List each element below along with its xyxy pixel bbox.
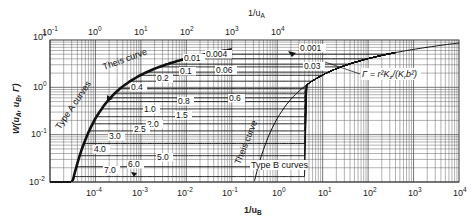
- curve-label-g70: 7.0: [104, 165, 116, 175]
- svg-text:103: 103: [408, 186, 422, 198]
- svg-text:101: 101: [134, 25, 148, 37]
- curve-label-g01: 0.1: [180, 66, 192, 76]
- svg-text:104: 104: [453, 186, 467, 198]
- type-b-curves-label: Type B curves: [251, 160, 309, 170]
- curve-label-g0001: 0.001: [300, 43, 322, 53]
- svg-text:10-2: 10-2: [177, 186, 193, 198]
- theis-curve-lower-label: Theis curve: [233, 119, 260, 166]
- type-curve-chart: 10-1 100 101 102 103 104 1/uA 10-4 10-3 …: [0, 0, 472, 224]
- svg-text:10-1: 10-1: [222, 186, 238, 198]
- top-axis-ticks: 10-1 100 101 102 103 104: [42, 25, 285, 37]
- curve-label-g30: 3.0: [109, 131, 121, 141]
- svg-text:102: 102: [363, 186, 377, 198]
- curve-label-g60: 6.0: [128, 159, 140, 169]
- top-axis-title: 1/uA: [248, 8, 266, 19]
- curve-label-g02: 0.2: [157, 73, 169, 83]
- svg-text:103: 103: [225, 25, 239, 37]
- curve-label-g10: 1.0: [144, 104, 156, 114]
- type-a-curves-label: Type A curves: [53, 79, 93, 131]
- svg-text:100: 100: [272, 186, 286, 198]
- svg-text:104: 104: [271, 25, 285, 37]
- svg-text:102: 102: [180, 25, 194, 37]
- svg-text:10-1: 10-1: [31, 127, 47, 139]
- curve-label-g04: 0.4: [131, 82, 143, 92]
- curve-label-g15: 1.5: [176, 110, 188, 120]
- svg-text:10-2: 10-2: [29, 175, 45, 187]
- curve-label-g25: 2.5: [134, 124, 146, 134]
- svg-text:101: 101: [33, 30, 47, 42]
- y-axis-ticks: 101 100 10-1 10-2: [29, 30, 47, 187]
- svg-text:10-4: 10-4: [86, 186, 102, 198]
- curve-label-g06: 0.6: [229, 93, 241, 103]
- svg-text:10-3: 10-3: [132, 186, 148, 198]
- svg-text:100: 100: [33, 80, 47, 92]
- curve-label-g006: 0.06: [216, 65, 233, 75]
- curve-label-g40: 4.0: [94, 144, 106, 154]
- curve-label-g50: 5.0: [157, 152, 169, 162]
- y-axis-title: W(uA, uB, Γ): [11, 84, 22, 134]
- svg-text:100: 100: [88, 25, 102, 37]
- curve-label-g08: 0.8: [178, 96, 190, 106]
- bottom-axis-title: 1/uB: [244, 205, 262, 216]
- curve-label-g0004: 0.004: [206, 49, 228, 59]
- curve-label-g003: 0.03: [304, 61, 321, 71]
- bottom-axis-ticks: 10-4 10-3 10-2 10-1 100 101 102 103 104: [86, 186, 467, 198]
- curve-label-g001: 0.01: [184, 53, 201, 63]
- svg-text:101: 101: [318, 186, 332, 198]
